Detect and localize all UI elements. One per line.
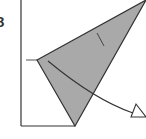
fold-arrow-head-icon (131, 104, 146, 117)
fold-diagram (0, 0, 146, 139)
folded-flap (37, 0, 146, 126)
